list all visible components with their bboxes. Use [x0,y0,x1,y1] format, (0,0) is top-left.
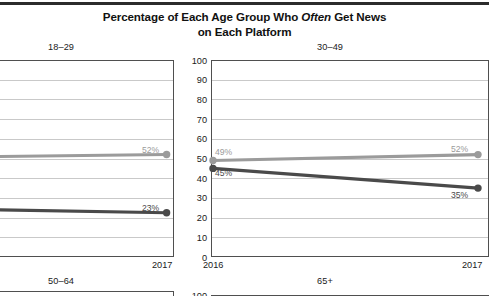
ytick-70: 70 [186,115,207,125]
xtick-2017-30-49: 2017 [462,260,482,270]
ytick-40: 40 [186,174,207,184]
figure-title-line-2: on Each Platform [0,24,489,39]
figure-title-part-2: Get News [331,10,386,23]
figure-title-part-1: Percentage of Each Age Group Who [103,10,302,23]
light-line-point-2016-30-49 [209,157,216,164]
dark-line-path-30-49 [213,168,478,188]
ytick-10: 10 [186,233,207,243]
light-line-endpoint-2017-18-29 [163,151,170,158]
data-label-45-30-49: 45% [215,168,232,178]
data-label-49-30-49: 49% [215,147,232,157]
top-rule-divider [0,2,489,5]
xtick-2017-18-29: 2017 [152,260,172,270]
data-label-23-18-29: 23% [142,203,159,213]
panel-30-49: 30–49 100 90 80 70 60 50 40 30 20 10 0 [186,42,489,270]
ytick-20: 20 [186,213,207,223]
data-label-52-30-49: 52% [451,144,468,154]
data-label-52-18-29: 52% [142,145,159,155]
ytick-30: 30 [186,193,207,203]
dark-line-point-2017-30-49 [474,184,481,191]
series-lines-18-29 [0,61,174,258]
panel-title-50-64: 50–64 [48,276,74,286]
chart-figure: Percentage of Each Age Group Who Often G… [0,0,489,296]
xtick-2016-30-49: 2016 [203,260,223,270]
panel-title-30-49: 30–49 [317,42,343,52]
panel-18-29: 18–29 52% 23% 2017 [0,42,186,270]
panel-50-64: 50–64 [0,276,186,296]
figure-title-line-1: Percentage of Each Age Group Who Often G… [0,9,489,24]
figure-title: Percentage of Each Age Group Who Often G… [0,9,489,39]
ytick-90: 90 [186,75,207,85]
plot-area-18-29 [0,60,174,257]
plot-area-30-49 [211,60,489,257]
data-label-35-30-49: 35% [451,190,468,200]
series-lines-30-49 [212,61,489,258]
ytick-100-65-plus: 100 [186,291,207,296]
ytick-80: 80 [186,95,207,105]
panel-title-65-plus: 65+ [317,276,333,286]
panel-65-plus: 65+ 100 [186,276,489,296]
ytick-100: 100 [186,56,207,66]
light-line-path-30-49 [213,155,478,161]
ytick-60: 60 [186,134,207,144]
ytick-50: 50 [186,154,207,164]
dark-line-endpoint-2017-18-29 [163,209,170,216]
figure-title-emphasis: Often [301,10,331,23]
light-line-point-2017-30-49 [474,151,481,158]
plot-area-50-64 [0,291,174,296]
panel-title-18-29: 18–29 [48,42,74,52]
